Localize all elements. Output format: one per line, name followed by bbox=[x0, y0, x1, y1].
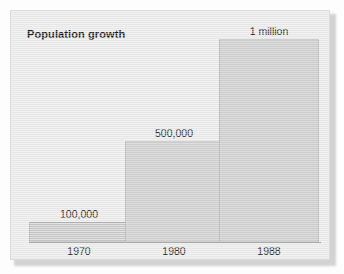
bar-1988 bbox=[219, 39, 319, 242]
bar-value-label-1970: 100,000 bbox=[29, 208, 129, 220]
chart-panel: Population growth 100,000 1970 500,000 1… bbox=[10, 10, 330, 260]
bar-1980 bbox=[125, 141, 223, 242]
bar-category-label-1980: 1980 bbox=[125, 245, 223, 257]
bar-1970 bbox=[29, 222, 129, 242]
bar-value-label-1980: 500,000 bbox=[125, 127, 223, 139]
axis-baseline bbox=[29, 242, 321, 243]
bar-category-label-1970: 1970 bbox=[29, 245, 129, 257]
bar-chart-figure: Population growth 100,000 1970 500,000 1… bbox=[0, 0, 344, 274]
plot-area: 100,000 1970 500,000 1980 1 million 1988 bbox=[11, 11, 330, 260]
bar-value-label-1988: 1 million bbox=[219, 25, 319, 37]
bar-category-label-1988: 1988 bbox=[219, 245, 319, 257]
